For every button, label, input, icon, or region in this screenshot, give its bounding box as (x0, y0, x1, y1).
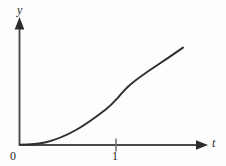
y-axis-label: y (17, 4, 22, 16)
growth-curve-figure: y t 0 1 (0, 0, 226, 166)
t-axis-arrow-icon (196, 140, 208, 150)
plot-canvas (0, 0, 226, 166)
t-axis-label: t (212, 137, 215, 149)
origin-label: 0 (10, 150, 16, 162)
growth-curve-path (20, 48, 183, 145)
x-tick-label-1: 1 (112, 150, 118, 162)
y-axis-arrow-icon (15, 17, 25, 30)
